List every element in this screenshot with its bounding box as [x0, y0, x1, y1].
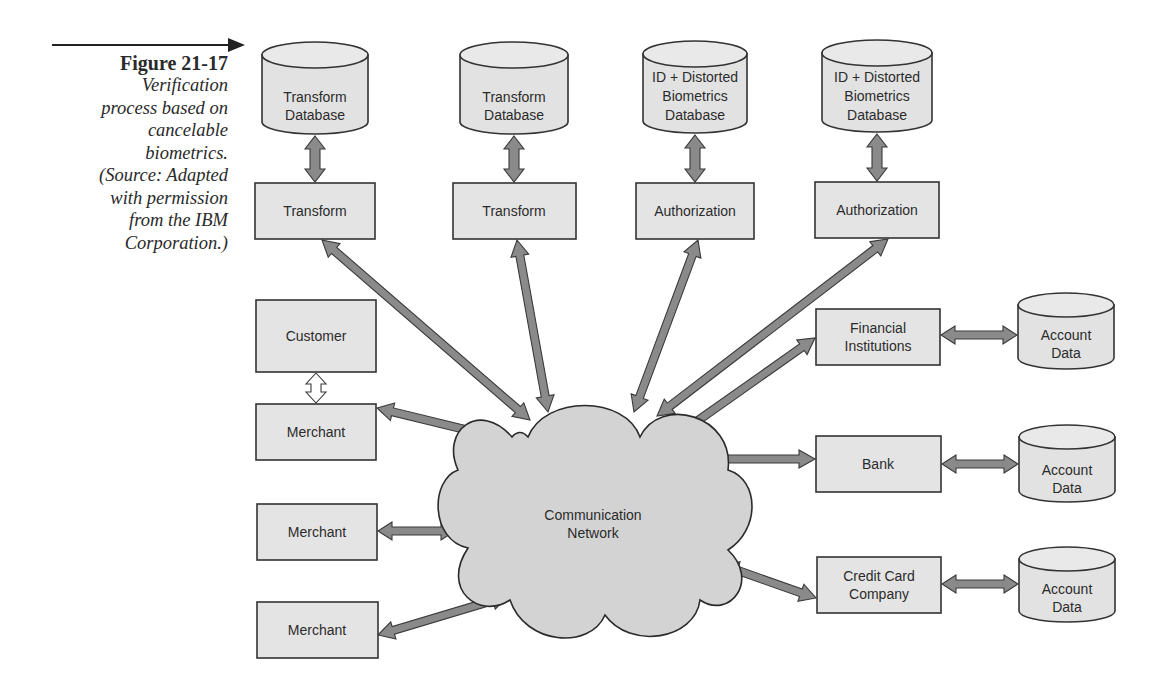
- arrow-customer-to-merchant-1: [306, 373, 326, 403]
- box-merchant-2: Merchant: [257, 504, 377, 560]
- box-label: Bank: [862, 456, 895, 472]
- box-label: Institutions: [845, 338, 912, 354]
- box-label: Customer: [286, 328, 347, 344]
- db-label-line: Data: [1051, 345, 1081, 361]
- db-label-line: Account: [1042, 462, 1093, 478]
- box-customer: Customer: [256, 300, 376, 372]
- verification-diagram: Communication Network Transform Database…: [0, 0, 1175, 695]
- box-transform-2: Transform: [453, 183, 576, 239]
- box-transform-1: Transform: [255, 183, 375, 239]
- db-label-line: Account: [1041, 327, 1092, 343]
- db-label-line: Biometrics: [844, 88, 909, 104]
- box-credit-card-company: Credit Card Company: [817, 557, 941, 613]
- box-authorization-1: Authorization: [636, 183, 754, 239]
- arrow-transform-2-to-network: [508, 238, 557, 413]
- box-merchant-1: Merchant: [256, 404, 376, 460]
- box-label: Transform: [283, 203, 346, 219]
- arrow-db-transform-1-to-transform-1: [305, 136, 325, 182]
- communication-network-cloud: Communication Network: [438, 406, 752, 638]
- db-label-line: Transform: [482, 89, 545, 105]
- cloud-label-line: Network: [567, 525, 619, 541]
- box-label: Authorization: [654, 203, 736, 219]
- database-transform-2: Transform Database: [460, 42, 568, 134]
- db-label-line: Biometrics: [662, 88, 727, 104]
- db-label-line: Database: [285, 107, 345, 123]
- db-label-line: Database: [847, 107, 907, 123]
- arrow-bank-to-db-account-2: [942, 455, 1018, 473]
- arrow-credit-card-company-to-db-account-3: [942, 575, 1018, 593]
- box-label: Company: [849, 586, 909, 602]
- box-authorization-2: Authorization: [815, 182, 939, 238]
- db-label-line: ID + Distorted: [652, 69, 738, 85]
- database-account-1: Account Data: [1018, 293, 1114, 369]
- box-label: Merchant: [288, 622, 346, 638]
- db-label-line: Database: [484, 107, 544, 123]
- box-label: Merchant: [287, 424, 345, 440]
- arrow-db-transform-2-to-transform-2: [504, 136, 524, 182]
- box-bank: Bank: [816, 436, 941, 492]
- box-label: Transform: [482, 203, 545, 219]
- db-label-line: Database: [665, 107, 725, 123]
- db-label-line: Data: [1052, 480, 1082, 496]
- db-label-line: Data: [1052, 599, 1082, 615]
- box-label: Authorization: [836, 202, 918, 218]
- database-biometrics-2: ID + Distorted Biometrics Database: [822, 40, 932, 132]
- db-label-line: ID + Distorted: [834, 69, 920, 85]
- database-account-3: Account Data: [1019, 547, 1115, 622]
- arrow-db-biometrics-1-to-authorization-1: [685, 135, 705, 182]
- arrow-financial-institutions-to-db-account-1: [941, 326, 1017, 344]
- box-financial-institutions: Financial Institutions: [816, 309, 940, 365]
- cloud-label-line: Communication: [544, 507, 641, 523]
- db-label-line: Account: [1042, 581, 1093, 597]
- db-label-line: Transform: [283, 89, 346, 105]
- box-merchant-3: Merchant: [257, 602, 378, 658]
- box-label: Credit Card: [843, 568, 915, 584]
- box-label: Merchant: [288, 524, 346, 540]
- database-biometrics-1: ID + Distorted Biometrics Database: [643, 41, 747, 133]
- arrow-db-biometrics-2-to-authorization-2: [867, 134, 887, 181]
- database-transform-1: Transform Database: [262, 42, 368, 134]
- box-label: Financial: [850, 320, 906, 336]
- database-account-2: Account Data: [1019, 425, 1115, 502]
